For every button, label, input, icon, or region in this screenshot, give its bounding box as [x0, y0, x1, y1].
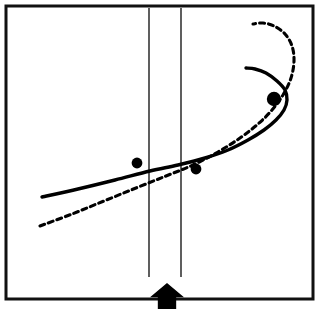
outer-border [6, 6, 313, 299]
data-point-upper [267, 92, 281, 106]
figure-container [0, 0, 327, 313]
data-point-mid [191, 164, 202, 175]
diagram-canvas [0, 0, 327, 313]
data-point-left [132, 158, 143, 169]
